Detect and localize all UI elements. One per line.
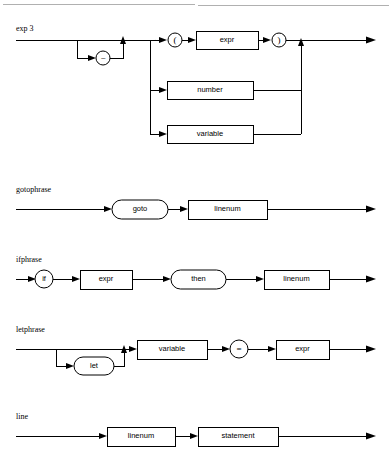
syntax-diagram-page: exp 3 − ( expr ) bbox=[0, 0, 389, 455]
letphrase-let-loop-down bbox=[56, 349, 66, 366]
node-let-label: let bbox=[90, 361, 99, 370]
ifphrase-then-arrowhead bbox=[163, 276, 171, 282]
letphrase-let-in-arrowhead bbox=[66, 363, 74, 369]
diagram-title-ifphrase: ifphrase bbox=[16, 255, 42, 264]
line-linenum-arrowhead bbox=[99, 433, 107, 439]
node-then-label: then bbox=[191, 274, 206, 283]
ifphrase-linenum-arrowhead bbox=[256, 276, 264, 282]
exp3-variable-arrowhead bbox=[159, 131, 167, 137]
node-expr-label-let: expr bbox=[295, 344, 310, 353]
node-number-label: number bbox=[197, 85, 223, 94]
exp3-minus-loop-down bbox=[77, 40, 88, 58]
gotophrase-goto-arrowhead bbox=[104, 206, 112, 212]
diagram-title-letphrase: letphrase bbox=[16, 325, 45, 334]
exp3-lparen-arrowhead bbox=[159, 37, 167, 43]
letphrase-expr-arrowhead bbox=[268, 346, 276, 352]
node-minus-label: − bbox=[100, 53, 105, 63]
node-expr-label-if: expr bbox=[99, 274, 114, 283]
diagram-exp3: exp 3 − ( expr ) bbox=[16, 24, 376, 143]
diagram-title-exp3: exp 3 bbox=[16, 24, 34, 33]
node-equals-label: = bbox=[236, 344, 241, 354]
syntax-diagram-canvas: exp 3 − ( expr ) bbox=[0, 0, 389, 455]
exp3-exit-arrowhead bbox=[366, 37, 376, 44]
node-statement-label: statement bbox=[222, 431, 256, 440]
exp3-expr-arrowhead bbox=[188, 37, 196, 43]
letphrase-let-loop-up bbox=[114, 353, 124, 366]
node-linenum-label: linenum bbox=[214, 204, 240, 213]
diagram-title-gotophrase: gotophrase bbox=[16, 185, 52, 194]
node-expr-label: expr bbox=[220, 35, 235, 44]
page-top-rule bbox=[0, 4, 389, 6]
letphrase-exit-arrowhead bbox=[366, 346, 376, 353]
diagram-ifphrase: ifphrase if expr then linenum bbox=[16, 255, 376, 289]
letphrase-variable-arrowhead bbox=[129, 346, 137, 352]
diagram-gotophrase: gotophrase goto linenum bbox=[16, 185, 376, 219]
exp3-merge-arrowhead bbox=[298, 38, 304, 46]
diagram-title-line: line bbox=[16, 412, 28, 421]
node-variable-label: variable bbox=[197, 129, 223, 138]
exp3-minus-loop-up bbox=[110, 44, 123, 58]
ifphrase-expr-arrowhead bbox=[72, 276, 80, 282]
node-lparen-label: ( bbox=[174, 35, 177, 45]
exp3-number-arrowhead bbox=[159, 87, 167, 93]
diagram-letphrase: letphrase let variable = expr bbox=[16, 325, 376, 375]
line-statement-arrowhead bbox=[190, 433, 198, 439]
exp3-minus-in-arrowhead bbox=[88, 55, 96, 61]
gotophrase-linenum-arrowhead bbox=[180, 206, 188, 212]
exp3-rparen-arrowhead bbox=[263, 37, 271, 43]
node-goto-label: goto bbox=[133, 204, 148, 213]
node-variable-label-let: variable bbox=[159, 344, 185, 353]
diagram-line: line linenum statement bbox=[16, 412, 376, 446]
letphrase-equals-arrowhead bbox=[222, 346, 230, 352]
line-exit-arrowhead bbox=[366, 433, 376, 440]
gotophrase-exit-arrowhead bbox=[366, 206, 376, 213]
node-rparen-label: ) bbox=[278, 35, 281, 45]
ifphrase-exit-arrowhead bbox=[366, 276, 376, 283]
node-linenum-label-line: linenum bbox=[128, 431, 154, 440]
node-linenum-label-if: linenum bbox=[283, 274, 309, 283]
